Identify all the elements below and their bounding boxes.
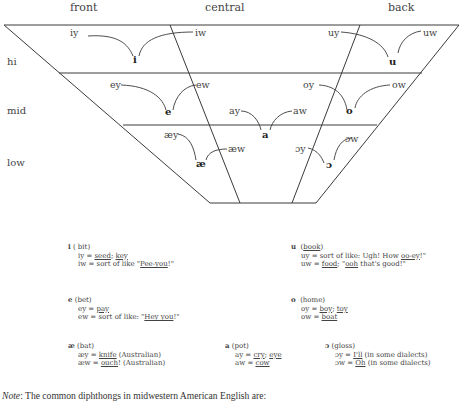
legend-i-symbol: i [68, 242, 71, 251]
note-label: Note [2, 390, 20, 401]
glide-aew: æw [228, 143, 245, 154]
legend-u-symbol: u [291, 242, 296, 251]
glide-aey: æy [164, 129, 178, 140]
legend-ae-symbol: æ [68, 341, 75, 350]
glide-uw: uw [423, 27, 437, 38]
glide-open-o-y: ɔy [295, 143, 306, 154]
legend-e: e (bet) ey = pay ew = sort of like: "Hey… [68, 296, 180, 322]
vowel-i: i [133, 54, 137, 65]
glide-ey: ey [110, 79, 121, 90]
vowel-o: o [346, 105, 353, 116]
legend-u: u (book) uy = sort of like: Ugh! How oo-… [291, 243, 426, 269]
glide-uy: uy [328, 27, 340, 38]
vowel-e: e [165, 106, 171, 117]
vowel-a: a [262, 129, 268, 140]
glide-ow: ow [392, 79, 406, 90]
legend-o-symbol: o [291, 295, 296, 304]
glide-ay: ay [229, 105, 240, 116]
legend-ae: æ (bat) æy = knife (Australian) æw = ouc… [68, 342, 165, 368]
glide-iy: iy [70, 27, 78, 38]
glide-oy: oy [303, 79, 314, 90]
glide-arcs [88, 31, 421, 163]
note-text: Note: The common diphthongs in midwester… [2, 390, 266, 401]
glide-open-o-w: ɔw [345, 133, 358, 144]
glide-aw: aw [293, 105, 307, 116]
back-edge [316, 25, 459, 203]
legend-o: o (home) oy = boy; toy ow = boat [291, 296, 348, 322]
glide-ew: ew [196, 79, 210, 90]
vowel-ae: æ [196, 158, 206, 169]
legend-i: i ( bit) iy = seed; key iw = sort of lik… [68, 243, 174, 269]
front-edge [4, 25, 210, 203]
glide-iw: iw [195, 27, 206, 38]
legend-open-o: ɔ (gloss) ɔy = I'll (in some dialects) ɔ… [325, 342, 431, 368]
vowel-u: u [389, 56, 396, 67]
legend-a: a (pot) ay = cry; eye aw = cow [225, 342, 282, 368]
vowel-open-o: ɔ [326, 159, 332, 170]
